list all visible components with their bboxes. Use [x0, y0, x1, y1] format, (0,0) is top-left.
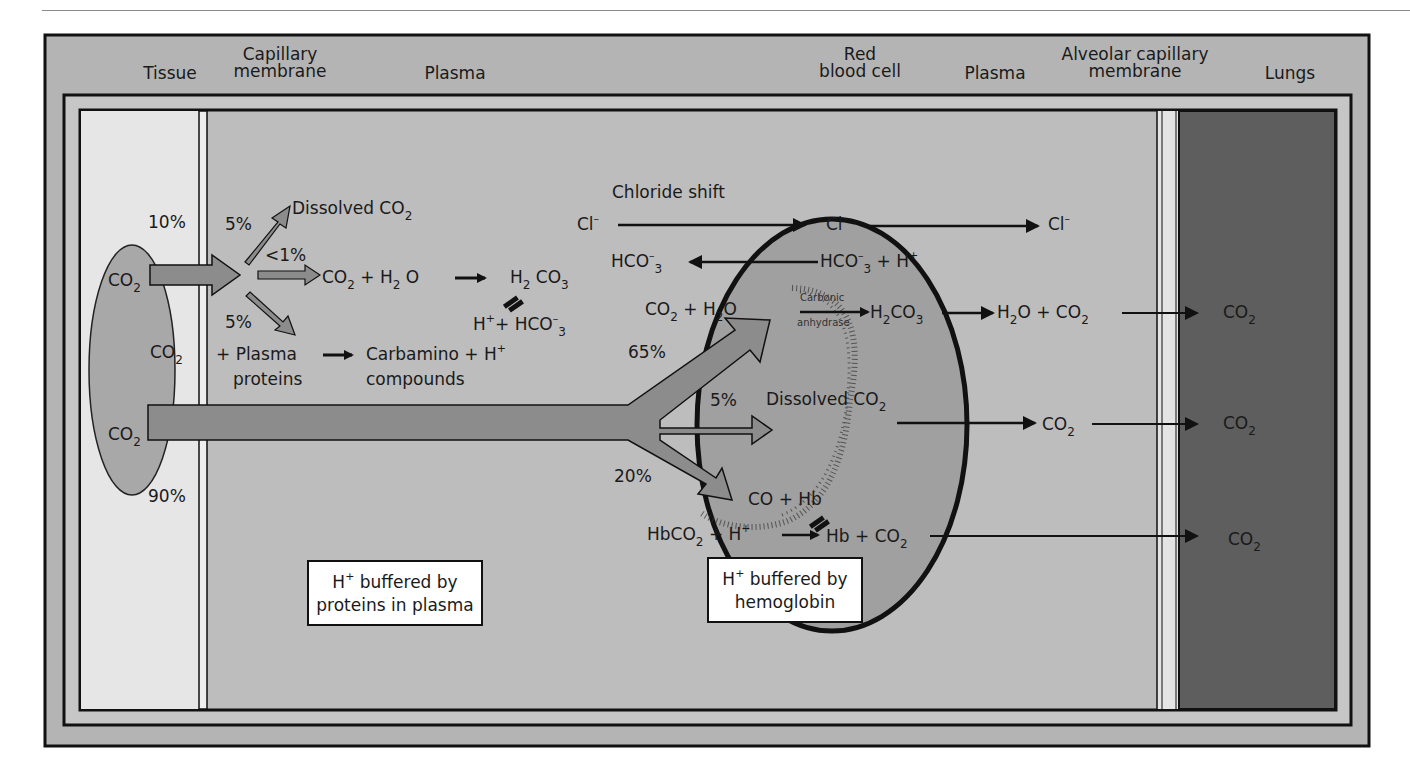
label-hb-co2: Hb + CO2 — [826, 527, 908, 548]
label-co2-lungs-3: CO2 — [1228, 530, 1261, 551]
tissue-co2-mid: CO2 — [150, 343, 183, 364]
label-h-plus-hco3-plasma: H++ HCO–3 — [473, 315, 566, 336]
label-co2-h2o-rbc: CO2 + H2O — [645, 300, 737, 321]
header-plasma-right: Plasma — [955, 65, 1035, 82]
label-5pct-dissolved: 5% — [225, 215, 252, 234]
tissue-co2-bottom: CO2 — [108, 425, 141, 446]
diagram-canvas — [0, 0, 1410, 769]
label-hco3-h-rbc: HCO–3 + H+ — [820, 252, 918, 273]
header-tissue: Tissue — [140, 65, 200, 82]
label-co2-plasma-right: CO2 — [1042, 415, 1075, 436]
label-co2-plus-h2o: CO2 + H2 O — [322, 268, 419, 289]
label-anhydrase: anhydrase — [797, 317, 850, 328]
header-lungs: Lungs — [1255, 65, 1325, 82]
header-plasma-left: Plasma — [415, 65, 495, 82]
label-lt1pct: <1% — [265, 246, 306, 265]
label-dissolved-co2: Dissolved CO2 — [292, 199, 412, 220]
label-h2co3-rbc: H2CO3 — [870, 303, 923, 324]
label-hbco2-h: HbCO2 + H+ — [647, 525, 751, 546]
label-compounds: compounds — [366, 370, 465, 389]
label-90pct: 90% — [148, 487, 186, 506]
tissue-co2-top: CO2 — [108, 271, 141, 292]
label-co2-lungs-2: CO2 — [1223, 414, 1256, 435]
box-h-buffered-hemoglobin: H+ buffered by hemoglobin — [707, 557, 863, 623]
header-alveolar-membrane: Alveolar capillarymembrane — [1045, 46, 1225, 80]
label-h2o-co2-plasma-right: H2O + CO2 — [997, 303, 1089, 324]
box-h-buffered-plasma: H+ buffered by proteins in plasma — [307, 560, 483, 626]
label-65pct: 65% — [628, 343, 666, 362]
label-plus-plasma: + Plasma — [216, 345, 297, 364]
label-cl-rbc: Cl– — [826, 215, 848, 236]
label-co-hb: CO + Hb — [748, 490, 822, 509]
header-red-blood-cell: Redblood cell — [805, 46, 915, 80]
label-cl-plasma: Cl– — [577, 215, 599, 236]
label-5pct-carbamino: 5% — [225, 313, 252, 332]
label-co2-lungs-1: CO2 — [1223, 303, 1256, 324]
label-10pct: 10% — [148, 213, 186, 232]
label-h2co3-plasma: H2 CO3 — [510, 268, 569, 289]
header-capillary-membrane: Capillarymembrane — [225, 46, 335, 80]
lungs-region — [1179, 111, 1335, 709]
label-carbamino: Carbamino + H+ — [366, 345, 506, 366]
label-chloride-shift: Chloride shift — [612, 183, 725, 202]
label-cl-plasma-right: Cl– — [1048, 215, 1070, 236]
label-5pct-rbc: 5% — [710, 391, 737, 410]
label-hco3-plasma: HCO–3 — [611, 252, 662, 273]
label-20pct: 20% — [614, 467, 652, 486]
label-dissolved-co2-rbc: Dissolved CO2 — [766, 390, 886, 411]
label-carbonic: Carbonic — [800, 292, 844, 303]
label-proteins: proteins — [233, 370, 302, 389]
